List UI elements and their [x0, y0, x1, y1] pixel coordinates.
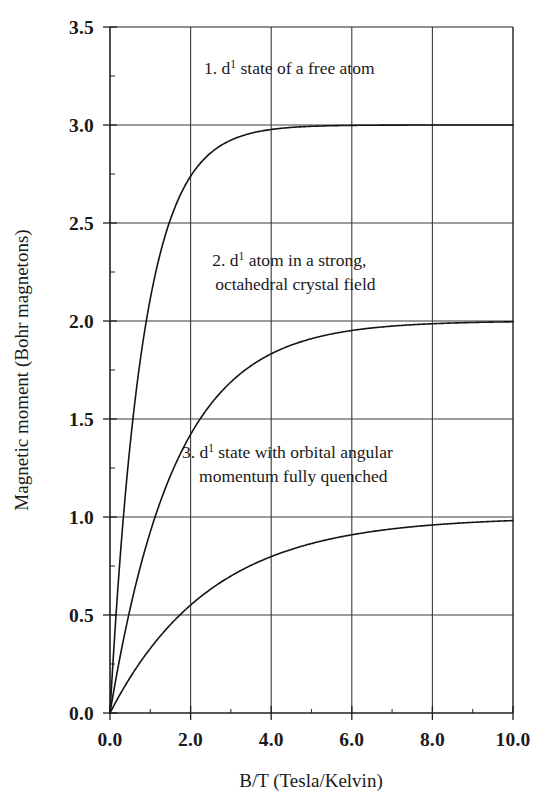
x-tick-label: 2.0 [178, 729, 203, 750]
y-tick-label: 1.0 [69, 507, 94, 528]
y-axis-title: Magnetic moment (Bohr magnetons) [11, 229, 33, 510]
y-tick-label: 2.0 [69, 311, 94, 332]
x-axis-title: B/T (Tesla/Kelvin) [239, 770, 382, 792]
x-tick-label: 4.0 [259, 729, 284, 750]
y-tick-label: 0.0 [69, 703, 94, 724]
x-tick-label: 10.0 [496, 729, 531, 750]
x-tick-label: 8.0 [420, 729, 445, 750]
annotation-1-line1: 1. d1 state of a free atom [204, 58, 375, 78]
y-tick-label: 3.0 [69, 115, 94, 136]
x-tick-label: 0.0 [98, 729, 123, 750]
y-tick-label: 0.5 [69, 605, 94, 626]
annotation-2-line1: 2. d1 atom in a strong, [212, 250, 366, 270]
annotation-2-line2: octahedral crystal field [215, 274, 376, 294]
y-tick-label: 2.5 [69, 213, 94, 234]
magnetic-moment-chart-figure: 0.02.04.06.08.010.0 0.00.51.01.52.02.53.… [0, 0, 542, 808]
chart-canvas: 0.02.04.06.08.010.0 0.00.51.01.52.02.53.… [0, 0, 542, 808]
x-tick-label: 6.0 [339, 729, 364, 750]
annotation-3-line1: 3. d1 state with orbital angular [182, 442, 393, 462]
annotation-3-line2: momentum fully quenched [199, 466, 388, 486]
y-tick-label: 3.5 [69, 17, 94, 38]
y-tick-label: 1.5 [69, 409, 94, 430]
